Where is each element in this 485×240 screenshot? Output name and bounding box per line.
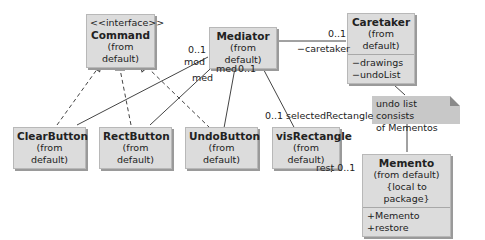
class-command[interactable]: <<interface>> Command (from default)	[86, 14, 155, 68]
package-label: (from default)	[189, 142, 254, 166]
realization-clearbutton-command	[57, 68, 98, 125]
class-memento[interactable]: Memento (from default) {local to package…	[362, 154, 451, 237]
attributes-section: −drawings −undoList	[348, 54, 414, 83]
realization-rectbutton-command	[120, 69, 131, 125]
association-end-label: rest 0..1	[316, 162, 355, 173]
class-name: Mediator	[213, 30, 273, 42]
role-label: −caretaker	[297, 43, 350, 54]
role-label: mod	[184, 56, 205, 67]
operation: +Memento	[367, 210, 446, 222]
multiplicity-label: 0..1	[265, 110, 283, 121]
class-rectbutton[interactable]: RectButton (from default)	[99, 127, 172, 169]
constraint-label: {local to package}	[366, 181, 447, 205]
operation: +restore	[367, 222, 446, 234]
role-label: med	[216, 63, 237, 74]
multiplicity-label: 0..1	[188, 44, 206, 55]
class-name: Command	[90, 29, 151, 41]
stereotype: <<interface>>	[90, 17, 151, 29]
class-undobutton[interactable]: UndoButton (from default)	[185, 127, 258, 169]
multiplicity-label: 0..1	[238, 63, 256, 74]
class-name: RectButton	[103, 130, 168, 142]
class-name: UndoButton	[189, 130, 254, 142]
package-label: (from default)	[351, 28, 411, 52]
package-label: (from default)	[90, 41, 151, 65]
role-label: selectedRectangle	[286, 110, 373, 121]
class-name: Memento	[366, 157, 447, 169]
attribute: −undoList	[352, 69, 410, 81]
note-undo-list[interactable]: undo list consists of Mementos	[372, 96, 460, 124]
package-label: (from default)	[17, 142, 82, 166]
class-name: visRectangle	[276, 130, 336, 142]
multiplicity-label: 0..1	[328, 28, 346, 39]
note-fold-icon	[450, 96, 460, 106]
class-name: ClearButton	[17, 130, 82, 142]
operations-section: +Memento +restore	[363, 207, 450, 236]
package-label: (from default)	[103, 142, 168, 166]
attribute: −drawings	[352, 57, 410, 69]
role-label: med	[192, 72, 213, 83]
class-caretaker[interactable]: Caretaker (from default) −drawings −undo…	[347, 13, 415, 84]
note-text-line1: undo list consists	[376, 98, 456, 122]
class-name: Caretaker	[351, 16, 411, 28]
class-clearbutton[interactable]: ClearButton (from default)	[13, 127, 86, 169]
note-text-line2: of Mementos	[376, 122, 456, 134]
package-label: (from default)	[366, 169, 447, 181]
